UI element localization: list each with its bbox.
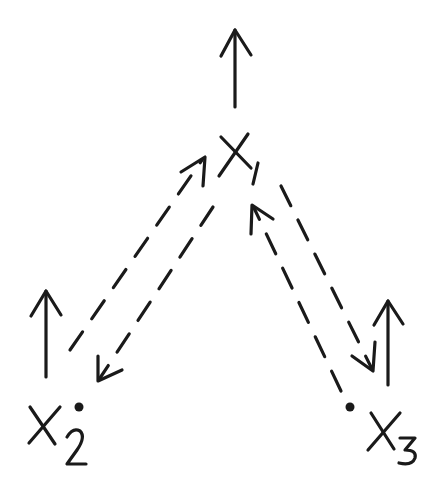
dashed-arrow-x1-to-x3-icon — [281, 186, 375, 371]
diagram-svg — [0, 0, 439, 495]
diagram-canvas: X1 X2 X3 — [0, 0, 439, 495]
node-x2-dot — [75, 403, 84, 412]
dashed-arrow-x3-to-x1-icon — [251, 205, 341, 391]
node-x3 — [368, 413, 415, 464]
dashed-arrow-x1-to-x2-icon — [98, 207, 213, 381]
node-x1 — [219, 134, 258, 184]
up-arrow-x2-icon — [31, 291, 61, 377]
node-x3-dot — [346, 403, 355, 412]
node-x2 — [29, 407, 86, 464]
up-arrow-x3-icon — [374, 301, 403, 385]
up-arrow-x1-icon — [221, 30, 251, 107]
